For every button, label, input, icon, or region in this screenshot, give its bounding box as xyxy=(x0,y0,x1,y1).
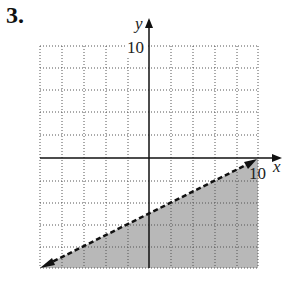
y-tick-label: 10 xyxy=(127,38,144,57)
x-axis-label: x xyxy=(272,157,281,176)
x-tick-label: 10 xyxy=(249,164,266,183)
inequality-graph: 10 y 10 x xyxy=(0,0,296,286)
y-axis-label: y xyxy=(133,14,143,33)
y-axis-arrow-icon xyxy=(145,18,153,28)
